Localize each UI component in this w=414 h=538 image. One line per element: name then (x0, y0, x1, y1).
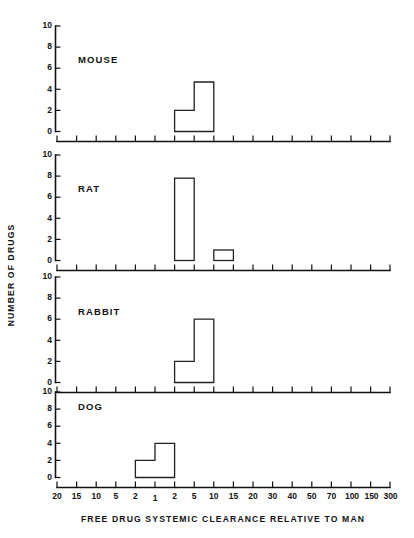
x-ticks-rabbit (57, 387, 390, 393)
x-ticks-mouse (57, 136, 390, 142)
y-tick-label-rabbit-10: 10 (43, 271, 53, 281)
y-tick-label-rabbit-8: 8 (47, 292, 52, 302)
y-tick-label-rat-8: 8 (47, 170, 52, 180)
y-tick-label-mouse-8: 8 (47, 41, 52, 51)
y-tick-label-mouse-0: 0 (47, 126, 52, 136)
panel-rat: 0 2 4 6 8 10 (43, 149, 390, 270)
panel-label-rabbit: RABBIT (78, 306, 121, 317)
x-tick-labels: 20 15 10 5 2 1 2 5 10 15 20 30 40 50 70 … (52, 491, 398, 503)
panel-mouse: 0 2 4 6 8 10 (43, 20, 390, 141)
x-tick-label-14: 70 (327, 491, 337, 501)
x-tick-label-5: 1 (153, 493, 158, 503)
y-tick-label-rabbit-4: 4 (47, 335, 52, 345)
panel-label-mouse: MOUSE (78, 54, 118, 65)
y-tick-label-dog-10: 10 (43, 386, 53, 396)
figure-histogram-panels: NUMBER OF DRUGS 0 2 4 6 8 10 (0, 0, 414, 538)
x-tick-label-1: 15 (72, 491, 82, 501)
x-tick-label-6: 2 (172, 491, 177, 501)
x-tick-label-2: 10 (91, 491, 101, 501)
x-tick-label-9: 15 (229, 491, 239, 501)
y-tick-label-rat-10: 10 (43, 149, 53, 159)
y-tick-label-rabbit-2: 2 (47, 356, 52, 366)
x-tick-label-7: 5 (192, 491, 197, 501)
y-tick-label-dog-0: 0 (47, 472, 52, 482)
panel-rabbit: 0 2 4 6 8 10 (43, 271, 390, 392)
panel-dog: 0 2 4 6 8 10 (43, 386, 398, 524)
panel-label-dog: DOG (78, 401, 103, 412)
x-tick-label-4: 2 (133, 491, 138, 501)
x-tick-label-10: 20 (248, 491, 258, 501)
panel-label-rat: RAT (78, 183, 100, 194)
y-tick-label-dog-8: 8 (47, 403, 52, 413)
x-tick-label-0: 20 (52, 491, 62, 501)
y-tick-label-rat-6: 6 (47, 191, 52, 201)
y-tick-label-rat-0: 0 (47, 255, 52, 265)
y-tick-label-rabbit-0: 0 (47, 377, 52, 387)
bar-group-dog (135, 443, 174, 477)
y-tick-label-rabbit-6: 6 (47, 313, 52, 323)
y-axis-title: NUMBER OF DRUGS (6, 224, 16, 327)
y-tick-label-rat-4: 4 (47, 213, 52, 223)
x-tick-label-12: 40 (287, 491, 297, 501)
y-tick-label-mouse-6: 6 (47, 62, 52, 72)
y-tick-label-mouse-10: 10 (43, 20, 53, 30)
bar-rat-2 (214, 250, 234, 261)
x-ticks-dog (57, 482, 390, 488)
y-tick-label-rat-2: 2 (47, 234, 52, 244)
bar-group-rabbit (175, 319, 214, 382)
x-tick-label-13: 50 (307, 491, 317, 501)
x-axis-title: FREE DRUG SYSTEMIC CLEARANCE RELATIVE TO… (81, 514, 365, 524)
x-tick-label-8: 10 (209, 491, 219, 501)
x-tick-label-16: 150 (364, 491, 378, 501)
bar-group-mouse (175, 82, 214, 132)
y-tick-label-dog-4: 4 (47, 438, 52, 448)
y-tick-label-dog-2: 2 (47, 455, 52, 465)
y-tick-label-mouse-2: 2 (47, 105, 52, 115)
y-tick-label-mouse-4: 4 (47, 84, 52, 94)
x-tick-label-17: 300 (383, 491, 397, 501)
chart-svg: NUMBER OF DRUGS 0 2 4 6 8 10 (0, 0, 414, 538)
y-tick-label-dog-6: 6 (47, 420, 52, 430)
x-tick-label-15: 100 (345, 491, 359, 501)
x-tick-label-11: 30 (268, 491, 278, 501)
x-tick-label-3: 5 (113, 491, 118, 501)
x-ticks-rat (57, 265, 390, 271)
bar-rat-1 (175, 178, 195, 260)
